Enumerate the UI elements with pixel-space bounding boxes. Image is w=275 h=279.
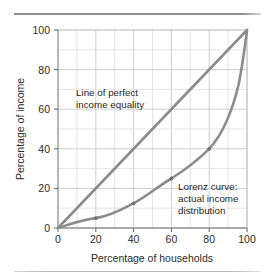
- data-point-marker: [132, 201, 136, 205]
- data-point-marker: [170, 177, 174, 181]
- x-tick-label-40: 40: [128, 233, 140, 245]
- chart-area: 0 20 40 60 80 100 0 20 40 60 80 100 Perc…: [0, 0, 275, 279]
- lorenz-annotation-line2: actual income: [178, 193, 239, 204]
- x-tick-label-60: 60: [166, 233, 178, 245]
- data-point-marker: [94, 216, 98, 220]
- data-point-marker: [207, 147, 211, 151]
- y-tick-label-20: 20: [38, 182, 50, 194]
- lorenz-annotation-line3: distribution: [178, 205, 225, 216]
- x-tick-label-20: 20: [90, 233, 102, 245]
- lorenz-curve-figure: 0 20 40 60 80 100 0 20 40 60 80 100 Perc…: [0, 0, 275, 279]
- x-tick-label-80: 80: [203, 233, 215, 245]
- y-tick-label-0: 0: [44, 222, 50, 234]
- y-tick-label-100: 100: [32, 24, 50, 36]
- x-tick-label-0: 0: [55, 233, 61, 245]
- y-axis-title: Percentage of income: [14, 78, 26, 180]
- y-tick-label-80: 80: [38, 64, 50, 76]
- equality-annotation-line1: Line of perfect: [76, 87, 138, 98]
- lorenz-chart-svg: 0 20 40 60 80 100 0 20 40 60 80 100 Perc…: [0, 0, 275, 279]
- equality-annotation-line2: income equality: [76, 99, 144, 110]
- y-tick-label-60: 60: [38, 103, 50, 115]
- y-tick-label-40: 40: [38, 143, 50, 155]
- x-tick-label-100: 100: [238, 233, 256, 245]
- lorenz-annotation-line1: Lorenz curve:: [178, 181, 237, 192]
- x-axis-title: Percentage of households: [91, 252, 213, 264]
